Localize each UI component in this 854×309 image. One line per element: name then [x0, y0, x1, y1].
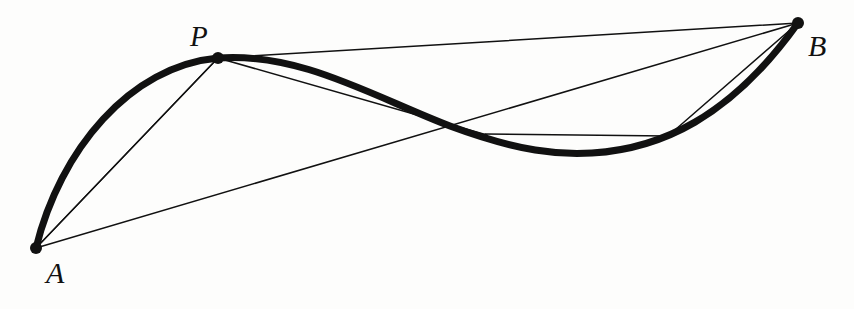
- figure-canvas: A P B: [0, 0, 854, 309]
- geometry-diagram: [0, 0, 854, 309]
- chord-r-b-line: [668, 23, 798, 136]
- point-marker-b[interactable]: [792, 17, 804, 29]
- point-label-b: B: [808, 31, 826, 61]
- thin-chord-group: [36, 23, 798, 248]
- chord-q-r-line: [485, 134, 668, 136]
- chord-a-b-line: [36, 23, 798, 248]
- point-label-a: A: [46, 258, 64, 288]
- point-marker-a[interactable]: [30, 242, 42, 254]
- point-label-p: P: [190, 22, 208, 51]
- chord-a-p-inner-line: [36, 62, 214, 248]
- point-marker-p[interactable]: [212, 52, 224, 64]
- chord-p-b-line: [218, 23, 798, 58]
